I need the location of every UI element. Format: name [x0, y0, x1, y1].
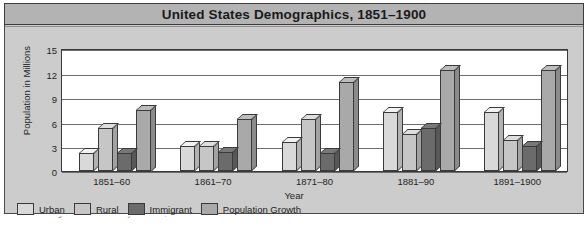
bar-face	[98, 128, 113, 171]
bar-side	[417, 129, 422, 171]
bar	[79, 153, 94, 171]
legend-label: Urban	[39, 204, 65, 215]
bar	[421, 128, 436, 171]
bar-face	[440, 70, 455, 171]
bar	[117, 153, 132, 171]
bar-face	[117, 153, 132, 171]
bar-face	[282, 142, 297, 171]
bar-face	[484, 112, 499, 171]
bar-side	[113, 123, 118, 171]
bar-face	[79, 153, 94, 171]
bar-side	[398, 107, 403, 171]
bar-face	[541, 70, 556, 171]
x-tick-label: 1891–1900	[494, 176, 542, 187]
bars-group	[62, 50, 567, 171]
source-note: Source: Carnegie Mellon University Libra…	[6, 216, 300, 218]
y-tick-label-9: 9	[52, 94, 57, 105]
bar-side	[556, 65, 561, 171]
page-title: United States Demographics, 1851–1900	[162, 7, 426, 22]
bar	[199, 146, 214, 171]
bar-side	[252, 114, 257, 171]
bar-face	[421, 128, 436, 171]
bar	[301, 119, 316, 171]
y-tick-label-3: 3	[52, 143, 57, 154]
bar	[320, 153, 335, 171]
chart-body-panel: Population in Millions 03691215 1851–601…	[5, 26, 583, 213]
bar-face	[320, 153, 335, 171]
y-tick-label-6: 6	[52, 118, 57, 129]
bar	[503, 140, 518, 171]
bar	[282, 142, 297, 171]
legend-swatch	[17, 203, 34, 215]
y-tick-label-15: 15	[46, 45, 57, 56]
bar-face	[503, 140, 518, 171]
y-tick-label-12: 12	[46, 69, 57, 80]
chart-figure: United States Demographics, 1851–1900 Po…	[0, 0, 588, 228]
y-tick-label-0: 0	[52, 167, 57, 178]
bar-face	[383, 112, 398, 171]
plot-area: 03691215	[61, 49, 568, 172]
bar-face	[180, 146, 195, 171]
bar-face	[402, 134, 417, 171]
gridline-0: 0	[62, 172, 567, 173]
legend-swatch	[128, 203, 145, 215]
bar-side	[436, 123, 441, 171]
legend-label: Population Growth	[223, 204, 301, 215]
chart-legend: UrbanRuralImmigrantPopulation Growth	[17, 203, 301, 215]
x-axis-label: Year	[5, 190, 583, 201]
x-tick-label: 1881–90	[397, 176, 434, 187]
bar	[541, 70, 556, 171]
chart-title-bar: United States Demographics, 1851–1900	[4, 3, 584, 25]
bar	[136, 110, 151, 172]
x-tick-label: 1871–80	[296, 176, 333, 187]
bar-face	[522, 146, 537, 171]
bar	[440, 70, 455, 171]
legend-item[interactable]: Population Growth	[201, 203, 301, 215]
bar-side	[518, 135, 523, 171]
legend-swatch	[201, 203, 218, 215]
bar	[237, 119, 252, 171]
x-tick-label: 1851–60	[93, 176, 130, 187]
legend-swatch	[74, 203, 91, 215]
bar	[339, 82, 354, 171]
bar-face	[339, 82, 354, 171]
legend-item[interactable]: Rural	[74, 203, 119, 215]
bar-side	[297, 137, 302, 171]
bar-side	[316, 114, 321, 171]
bar-side	[151, 105, 156, 172]
bar-face	[136, 110, 151, 172]
bar-side	[354, 77, 359, 171]
bar-face	[199, 146, 214, 171]
bar-face	[218, 152, 233, 171]
bar-face	[301, 119, 316, 171]
bar	[522, 146, 537, 171]
bar	[218, 152, 233, 171]
legend-item[interactable]: Immigrant	[128, 203, 192, 215]
bar	[484, 112, 499, 171]
bar	[402, 134, 417, 171]
bar	[180, 146, 195, 171]
bar	[383, 112, 398, 171]
x-tick-label: 1861–70	[195, 176, 232, 187]
y-axis-label: Population in Millions	[21, 31, 32, 151]
bar-side	[499, 107, 504, 171]
source-note-strip: Source: Carnegie Mellon University Libra…	[4, 216, 584, 228]
legend-label: Rural	[96, 204, 119, 215]
legend-item[interactable]: Urban	[17, 203, 65, 215]
legend-label: Immigrant	[150, 204, 192, 215]
bar	[98, 128, 113, 171]
bar-side	[455, 65, 460, 171]
bar-face	[237, 119, 252, 171]
